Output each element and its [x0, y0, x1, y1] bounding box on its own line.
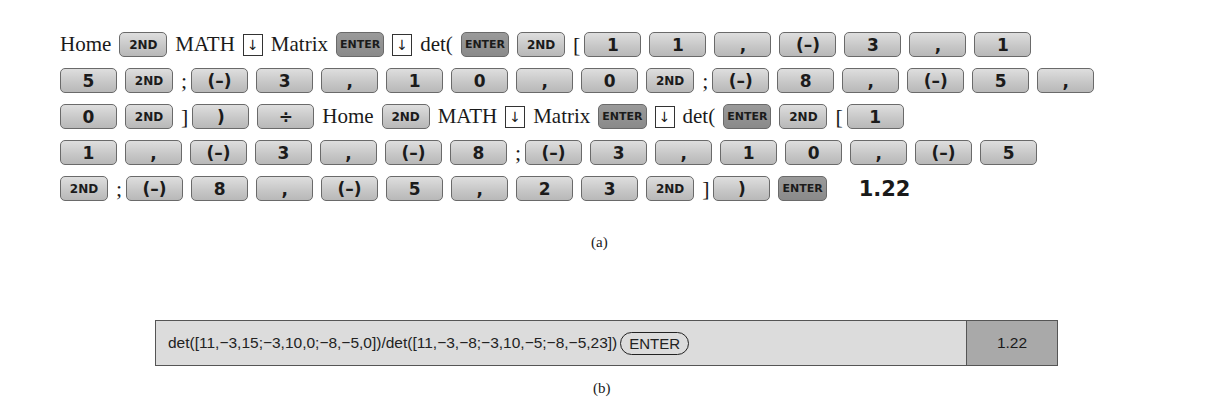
instruction-text: MATH — [438, 104, 498, 129]
calculator-key: 0 — [581, 68, 638, 93]
caption-b: (b) — [593, 380, 611, 397]
calculator-key: , — [256, 176, 313, 201]
calculator-key: 3 — [256, 68, 313, 93]
instruction-text: Matrix — [533, 104, 590, 129]
calculator-key: (–) — [525, 140, 582, 165]
keystroke-row: 02ND])÷Home2NDMATH↓MatrixENTER↓det(ENTER… — [60, 99, 1200, 134]
calculator-key: (–) — [907, 68, 964, 93]
symbol-text: ; — [702, 68, 708, 94]
calculator-key: 3 — [581, 176, 638, 201]
calculator-key: 5 — [980, 140, 1037, 165]
calculator-key: (–) — [321, 176, 378, 201]
calculator-key: , — [321, 68, 378, 93]
second-key: 2ND — [517, 32, 565, 57]
second-key: 2ND — [125, 68, 173, 93]
result-value: 1.22 — [859, 177, 911, 201]
symbol-text: [ — [835, 104, 842, 130]
calculator-key: 8 — [777, 68, 834, 93]
calculator-key: 5 — [60, 68, 117, 93]
instruction-text: det( — [683, 104, 716, 129]
caption-a: (a) — [591, 234, 608, 251]
calculator-key: (–) — [779, 32, 836, 57]
instruction-text: Home — [322, 104, 373, 129]
calculator-key: , — [451, 176, 508, 201]
calculator-key: , — [1037, 68, 1094, 93]
enter-key: ENTER — [336, 32, 384, 57]
enter-key-label: ENTER — [620, 332, 689, 355]
calculator-key: 3 — [844, 32, 901, 57]
enter-key: ENTER — [778, 176, 826, 201]
calculator-key: 0 — [60, 104, 117, 129]
calculator-key: (–) — [915, 140, 972, 165]
instruction-text: Home — [60, 32, 111, 57]
calculator-display-panel: det([11,−3,15;−3,10,0;−8,−5,0])/det([11,… — [155, 320, 1058, 366]
calculator-key: 2 — [516, 176, 573, 201]
enter-key: ENTER — [723, 104, 771, 129]
calculator-key: , — [320, 140, 377, 165]
expression-text: det([11,−3,15;−3,10,0;−8,−5,0])/det([11,… — [168, 334, 617, 352]
calculator-key: , — [125, 140, 182, 165]
keystroke-row: Home2NDMATH↓MatrixENTER↓det(ENTER2ND[11,… — [60, 27, 1200, 62]
calculator-key: 1 — [847, 104, 904, 129]
calculator-key: 0 — [451, 68, 508, 93]
calculator-key: 1 — [584, 32, 641, 57]
second-key: 2ND — [125, 104, 173, 129]
keystroke-row: 2ND;(–)8,(–)5,232ND])ENTER1.22 — [60, 171, 1200, 206]
instruction-text: det( — [420, 32, 453, 57]
symbol-text: ; — [515, 140, 521, 166]
calculator-key: 0 — [785, 140, 842, 165]
second-key: 2ND — [119, 32, 167, 57]
expression-cell: det([11,−3,15;−3,10,0;−8,−5,0])/det([11,… — [156, 321, 966, 365]
calculator-key: 8 — [191, 176, 248, 201]
calculator-key: , — [655, 140, 712, 165]
calculator-key: ) — [713, 176, 770, 201]
symbol-text: ; — [116, 176, 122, 202]
calculator-key: 1 — [649, 32, 706, 57]
down-arrow-icon: ↓ — [243, 34, 263, 56]
symbol-text: ] — [702, 176, 709, 202]
down-arrow-icon: ↓ — [505, 106, 525, 128]
calculator-key: , — [909, 32, 966, 57]
keystroke-row: 1,(–)3,(–)8;(–)3,10,(–)5 — [60, 135, 1200, 170]
enter-key: ENTER — [598, 104, 646, 129]
calculator-key: ) — [192, 104, 249, 129]
keystroke-sequence: Home2NDMATH↓MatrixENTER↓det(ENTER2ND[11,… — [60, 27, 1200, 207]
result-cell: 1.22 — [966, 321, 1057, 365]
calculator-key: (–) — [190, 140, 247, 165]
symbol-text: ] — [181, 104, 188, 130]
second-key: 2ND — [60, 176, 108, 201]
second-key: 2ND — [646, 176, 694, 201]
down-arrow-icon: ↓ — [655, 106, 675, 128]
instruction-text: Matrix — [271, 32, 328, 57]
calculator-key: 1 — [974, 32, 1031, 57]
symbol-text: [ — [573, 32, 580, 58]
calculator-key: 1 — [60, 140, 117, 165]
calculator-key: , — [842, 68, 899, 93]
calculator-key: (–) — [191, 68, 248, 93]
calculator-key: (–) — [385, 140, 442, 165]
calculator-key: ÷ — [257, 104, 314, 129]
calculator-key: (–) — [126, 176, 183, 201]
calculator-key: 8 — [450, 140, 507, 165]
calculator-key: 3 — [255, 140, 312, 165]
calculator-key: 1 — [386, 68, 443, 93]
calculator-key: , — [714, 32, 771, 57]
down-arrow-icon: ↓ — [392, 34, 412, 56]
calculator-key: , — [850, 140, 907, 165]
calculator-key: 3 — [590, 140, 647, 165]
calculator-key: , — [516, 68, 573, 93]
second-key: 2ND — [382, 104, 430, 129]
second-key: 2ND — [779, 104, 827, 129]
calculator-key: 5 — [386, 176, 443, 201]
calculator-key: 1 — [720, 140, 777, 165]
instruction-text: MATH — [175, 32, 235, 57]
calculator-key: 5 — [972, 68, 1029, 93]
symbol-text: ; — [181, 68, 187, 94]
calculator-key: (–) — [712, 68, 769, 93]
second-key: 2ND — [646, 68, 694, 93]
enter-key: ENTER — [461, 32, 509, 57]
keystroke-row: 52ND;(–)3,10,02ND;(–)8,(–)5, — [60, 63, 1200, 98]
